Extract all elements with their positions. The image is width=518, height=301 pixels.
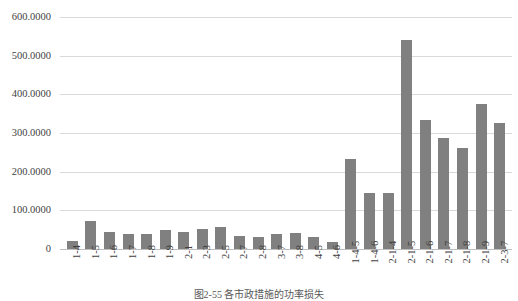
- bar[interactable]: [438, 138, 449, 249]
- x-axis-tick: 1-8: [137, 250, 156, 290]
- x-axis-tick: 2-1-7: [435, 250, 454, 290]
- bar-slot: [472, 17, 491, 249]
- bar[interactable]: [345, 159, 356, 249]
- x-axis-tick: 2-1-8: [453, 250, 472, 290]
- bar[interactable]: [420, 120, 431, 249]
- bar-slot: [267, 17, 286, 249]
- y-axis-tick-label: 500.0000: [12, 50, 51, 61]
- bar-slot: [137, 17, 156, 249]
- x-axis-tick: 2-3-7: [490, 250, 509, 290]
- y-axis-tick-label: 100.0000: [12, 205, 51, 216]
- y-axis: 600.0000500.0000400.0000300.0000200.0000…: [0, 17, 57, 249]
- bar-slot: [82, 17, 101, 249]
- bar-series: [60, 17, 512, 249]
- bar-slot: [156, 17, 175, 249]
- x-axis-tick-label: 2-3-7: [500, 241, 511, 264]
- x-axis-tick: 1-4: [63, 250, 82, 290]
- bar[interactable]: [401, 40, 412, 249]
- figure-caption: 图2-55 各市政措施的功率损失: [0, 289, 518, 300]
- bar-slot: [490, 17, 509, 249]
- bar-slot: [323, 17, 342, 249]
- x-axis-tick: 3-7: [267, 250, 286, 290]
- y-axis-tick-label: 300.0000: [12, 128, 51, 139]
- y-axis-tick-label: 400.0000: [12, 89, 51, 100]
- bar-slot: [416, 17, 435, 249]
- y-axis-tick-label: 200.0000: [12, 166, 51, 177]
- x-axis-tick: 2-7: [230, 250, 249, 290]
- x-axis-tick: 4-6: [323, 250, 342, 290]
- bar-slot: [63, 17, 82, 249]
- x-axis-tick: 2-5: [212, 250, 231, 290]
- bar-slot: [360, 17, 379, 249]
- bar-slot: [379, 17, 398, 249]
- bar-slot: [212, 17, 231, 249]
- bar[interactable]: [494, 123, 505, 249]
- x-axis-tick: 1-9: [156, 250, 175, 290]
- x-axis-tick: 1-4-6: [360, 250, 379, 290]
- bar-slot: [100, 17, 119, 249]
- x-axis-tick: 2-1-6: [416, 250, 435, 290]
- bar-slot: [249, 17, 268, 249]
- bar-slot: [230, 17, 249, 249]
- figure-container: 600.0000500.0000400.0000300.0000200.0000…: [0, 0, 518, 301]
- y-axis-tick-label: 0: [46, 244, 51, 255]
- bar[interactable]: [457, 148, 468, 249]
- bar-slot: [119, 17, 138, 249]
- x-axis-labels: 1-41-51-61-71-81-92-12-32-52-72-83-73-84…: [60, 250, 512, 290]
- plot-area: [60, 17, 512, 249]
- x-axis-tick: 2-1-9: [472, 250, 491, 290]
- x-axis-tick: 1-6: [100, 250, 119, 290]
- bar-slot: [342, 17, 361, 249]
- bar-slot: [397, 17, 416, 249]
- bar-slot: [305, 17, 324, 249]
- x-axis-tick: 1-7: [119, 250, 138, 290]
- x-axis-tick: 2-1-5: [397, 250, 416, 290]
- bar-slot: [435, 17, 454, 249]
- x-axis-tick: 2-1-4: [379, 250, 398, 290]
- x-axis-tick: 2-3: [193, 250, 212, 290]
- bar-slot: [453, 17, 472, 249]
- bar[interactable]: [476, 104, 487, 249]
- bar-slot: [286, 17, 305, 249]
- x-axis-tick: 1-5: [82, 250, 101, 290]
- x-axis-tick: 4-5: [305, 250, 324, 290]
- x-axis-tick: 2-1: [174, 250, 193, 290]
- x-axis-tick: 2-8: [249, 250, 268, 290]
- x-axis-tick: 3-8: [286, 250, 305, 290]
- x-axis-tick: 1-4-5: [342, 250, 361, 290]
- bar-slot: [193, 17, 212, 249]
- y-axis-tick-label: 600.0000: [12, 12, 51, 23]
- bar-slot: [174, 17, 193, 249]
